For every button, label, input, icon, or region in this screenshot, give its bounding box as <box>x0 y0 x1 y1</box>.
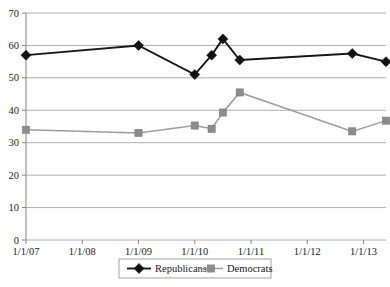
chart-legend[interactable]: RepublicansDemocrats <box>119 259 272 278</box>
data-point-republicans <box>381 57 390 67</box>
data-point-democrats <box>236 89 243 96</box>
y-tick-label: 20 <box>9 170 20 181</box>
data-point-democrats <box>219 109 226 116</box>
y-tick-label: 30 <box>9 137 20 148</box>
y-tick-label: 0 <box>14 235 19 246</box>
x-tick-label: 1/1/11 <box>238 246 264 257</box>
democrats-polyline <box>26 92 386 133</box>
y-tick-label: 50 <box>9 72 20 83</box>
legend-label-democrats[interactable]: Democrats <box>227 263 272 274</box>
y-tick-label: 70 <box>9 8 20 19</box>
x-tick-label: 1/1/07 <box>13 246 40 257</box>
data-point-republicans <box>134 40 144 50</box>
x-tick-label: 1/1/12 <box>294 246 321 257</box>
y-tick-label: 60 <box>9 40 20 51</box>
chart-canvas: 010203040506070 1/1/071/1/081/1/091/1/10… <box>0 0 390 287</box>
x-axis: 1/1/071/1/081/1/091/1/101/1/111/1/121/1/… <box>13 240 377 257</box>
x-tick-label: 1/1/08 <box>69 246 96 257</box>
x-tick-label: 1/1/13 <box>350 246 377 257</box>
data-point-democrats <box>135 129 142 136</box>
y-tick-label: 40 <box>9 105 20 116</box>
x-tick-label: 1/1/09 <box>125 246 152 257</box>
data-point-democrats <box>382 117 389 124</box>
series-line-republicans <box>26 39 386 75</box>
data-point-republicans <box>21 50 31 60</box>
y-tick-label: 10 <box>9 202 20 213</box>
data-point-democrats <box>191 122 198 129</box>
series-markers-democrats <box>22 89 389 137</box>
data-point-democrats <box>349 128 356 135</box>
republicans-polyline <box>26 39 386 75</box>
data-point-republicans <box>347 49 357 59</box>
data-point-democrats <box>208 125 215 132</box>
data-point-democrats <box>22 126 29 133</box>
series-line-democrats <box>26 92 386 133</box>
legend-marker-democrats <box>207 265 214 272</box>
gridlines <box>26 13 386 240</box>
x-tick-label: 1/1/10 <box>181 246 208 257</box>
line-chart: 010203040506070 1/1/071/1/081/1/091/1/10… <box>0 0 390 287</box>
series-markers-republicans <box>21 34 390 80</box>
